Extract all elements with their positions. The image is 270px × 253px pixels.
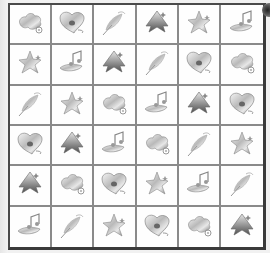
tile-r2-c0[interactable]	[10, 86, 52, 126]
tile-r1-c4[interactable]	[179, 45, 221, 85]
leaf-icon	[226, 167, 258, 203]
tile-r5-c2[interactable]	[94, 207, 136, 247]
tile-r5-c0[interactable]	[10, 207, 52, 247]
diamond-icon	[183, 87, 215, 123]
tile-r1-c5[interactable]	[221, 45, 263, 85]
star-icon	[98, 209, 130, 245]
music-note-icon	[141, 87, 173, 123]
tile-r1-c2[interactable]	[94, 45, 136, 85]
tile-r3-c0[interactable]	[10, 126, 52, 166]
heart-icon	[141, 209, 173, 245]
tile-r4-c4[interactable]	[179, 166, 221, 206]
tile-r2-c3[interactable]	[137, 86, 179, 126]
music-note-icon	[14, 209, 46, 245]
star-icon	[183, 6, 215, 42]
tile-r0-c4[interactable]	[179, 5, 221, 45]
tile-r3-c3[interactable]	[137, 126, 179, 166]
tile-r5-c5[interactable]	[221, 207, 263, 247]
tile-r3-c5[interactable]	[221, 126, 263, 166]
star-icon	[141, 167, 173, 203]
tile-r4-c2[interactable]	[94, 166, 136, 206]
tile-r2-c2[interactable]	[94, 86, 136, 126]
star-icon	[14, 46, 46, 82]
tile-r5-c3[interactable]	[137, 207, 179, 247]
heart-icon	[98, 167, 130, 203]
music-note-icon	[226, 6, 258, 42]
tile-r0-c0[interactable]	[10, 5, 52, 45]
music-note-icon	[183, 167, 215, 203]
tile-r5-c4[interactable]	[179, 207, 221, 247]
tile-r2-c1[interactable]	[52, 86, 94, 126]
tile-r5-c1[interactable]	[52, 207, 94, 247]
tile-r1-c3[interactable]	[137, 45, 179, 85]
tile-r4-c5[interactable]	[221, 166, 263, 206]
heart-icon	[56, 6, 88, 42]
heart-icon	[226, 87, 258, 123]
tile-r1-c1[interactable]	[52, 45, 94, 85]
music-note-icon	[98, 127, 130, 163]
tile-r3-c1[interactable]	[52, 126, 94, 166]
left-margin	[0, 0, 8, 253]
cloud-icon	[226, 46, 258, 82]
leaf-icon	[183, 127, 215, 163]
leaf-icon	[56, 209, 88, 245]
heart-icon	[14, 127, 46, 163]
corner-knob	[262, 3, 270, 17]
game-board	[8, 3, 266, 250]
tile-r4-c0[interactable]	[10, 166, 52, 206]
tile-r3-c2[interactable]	[94, 126, 136, 166]
tile-r0-c2[interactable]	[94, 5, 136, 45]
tile-r1-c0[interactable]	[10, 45, 52, 85]
tile-r2-c5[interactable]	[221, 86, 263, 126]
cloud-icon	[183, 209, 215, 245]
tile-r4-c1[interactable]	[52, 166, 94, 206]
diamond-icon	[98, 46, 130, 82]
cloud-icon	[56, 167, 88, 203]
leaf-icon	[141, 46, 173, 82]
heart-icon	[183, 46, 215, 82]
diamond-icon	[226, 209, 258, 245]
diamond-icon	[141, 6, 173, 42]
tile-r2-c4[interactable]	[179, 86, 221, 126]
tile-r4-c3[interactable]	[137, 166, 179, 206]
diamond-icon	[14, 167, 46, 203]
tile-r0-c5[interactable]	[221, 5, 263, 45]
star-icon	[226, 127, 258, 163]
leaf-icon	[98, 6, 130, 42]
leaf-icon	[14, 87, 46, 123]
tile-r0-c3[interactable]	[137, 5, 179, 45]
music-note-icon	[56, 46, 88, 82]
star-icon	[56, 87, 88, 123]
cloud-icon	[141, 127, 173, 163]
tile-r0-c1[interactable]	[52, 5, 94, 45]
tile-r3-c4[interactable]	[179, 126, 221, 166]
diamond-icon	[56, 127, 88, 163]
cloud-icon	[14, 6, 46, 42]
cloud-icon	[98, 87, 130, 123]
